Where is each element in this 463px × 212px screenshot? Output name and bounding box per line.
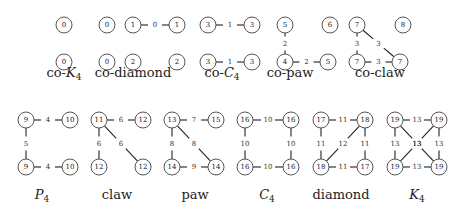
graph-node: 10 — [62, 112, 78, 128]
node-label: 18 — [317, 163, 326, 171]
graph-node: 17 — [313, 112, 329, 128]
graph-claw: 66611121212claw — [91, 112, 151, 202]
node-label: 15 — [212, 116, 221, 124]
graph-node: 3 — [244, 54, 260, 70]
graph-node: 10 — [62, 159, 78, 175]
edge: 6 — [104, 126, 137, 161]
edge-weight-label: 3 — [355, 40, 359, 48]
edge-weight-label: 10 — [264, 163, 273, 171]
edge: 10 — [287, 128, 296, 159]
graph-co-k4: 00co-K4 — [47, 17, 82, 82]
edge: 6 — [107, 116, 135, 124]
edge-weight-label: 8 — [170, 140, 174, 148]
edge: 8 — [170, 128, 174, 159]
graph-node: 9 — [18, 112, 34, 128]
node-label: 3 — [206, 21, 210, 29]
graph-caption: co-paw — [267, 65, 314, 80]
graph-node: 13 — [164, 112, 180, 128]
graph-node: 3 — [200, 17, 216, 33]
edge-weight-label: 5 — [24, 140, 28, 148]
node-label: 1 — [175, 21, 179, 29]
graph-caption: P4 — [34, 187, 50, 204]
edge: 4 — [34, 116, 62, 124]
edge: 1 — [216, 21, 244, 29]
edge: 11 — [329, 116, 357, 124]
edge: 11 — [361, 128, 370, 159]
graph-node: 1 — [125, 17, 141, 33]
edge: 0 — [141, 21, 169, 29]
edge-weight-label: 2 — [283, 40, 287, 48]
node-label: 9 — [24, 116, 28, 124]
graph-co-paw: 225645co-paw — [267, 17, 338, 80]
node-label: 10 — [66, 116, 75, 124]
graph-node: 16 — [237, 159, 253, 175]
graph-node: 12 — [91, 159, 107, 175]
edge: 13 — [403, 163, 431, 171]
edge-weight-label: 6 — [97, 140, 102, 148]
graph-co-diamond: 0011022co-diamond — [95, 17, 185, 80]
graph-node: 3 — [244, 17, 260, 33]
graph-node: 14 — [208, 159, 224, 175]
node-label: 19 — [435, 163, 444, 171]
node-label: 0 — [62, 21, 66, 29]
graph-node: 19 — [431, 159, 447, 175]
graph-node: 15 — [208, 112, 224, 128]
edge: 2 — [283, 33, 287, 54]
node-label: 2 — [175, 58, 179, 66]
edge-weight-label: 3 — [376, 40, 380, 48]
edge-weight-label: 9 — [192, 163, 196, 171]
node-label: 0 — [105, 21, 109, 29]
graph-node: 6 — [322, 17, 338, 33]
edge-weight-label: 6 — [119, 140, 124, 148]
edge: 9 — [180, 163, 208, 171]
edge-weight-label: 13 — [413, 116, 422, 124]
node-label: 14 — [212, 163, 221, 171]
graph-node: 5 — [277, 17, 293, 33]
edge-weight-label: 13 — [391, 140, 400, 148]
edge-weight-label: 4 — [46, 116, 51, 124]
node-label: 12 — [95, 163, 104, 171]
graph-node: 18 — [357, 112, 373, 128]
graph-co-claw: 3337877co-claw — [349, 17, 411, 80]
edge-weight-label: 13 — [435, 140, 444, 148]
edge: 11 — [329, 163, 357, 171]
node-label: 9 — [24, 163, 28, 171]
graph-node: 7 — [349, 17, 365, 33]
graph-node: 19 — [387, 112, 403, 128]
graph-diagram: 00co-K40011022co-diamond113333co-C422564… — [0, 0, 463, 212]
node-label: 12 — [139, 116, 148, 124]
node-label: 17 — [317, 116, 326, 124]
node-label: 5 — [283, 21, 287, 29]
edge-weight-label: 11 — [339, 163, 348, 171]
edge-weight-label: 11 — [339, 116, 348, 124]
graph-k4: 13131313131319191919K4 — [387, 112, 447, 204]
graph-node: 12 — [135, 159, 151, 175]
edge: 13 — [403, 116, 431, 124]
graph-node: 9 — [18, 159, 34, 175]
graph-node: 12 — [135, 112, 151, 128]
node-label: 14 — [168, 163, 177, 171]
graph-node: 8 — [395, 17, 411, 33]
node-label: 19 — [391, 163, 400, 171]
edge: 12 — [326, 126, 359, 161]
graph-node: 18 — [313, 159, 329, 175]
edge: 4 — [34, 163, 62, 171]
node-label: 5 — [326, 58, 330, 66]
edge: 5 — [24, 128, 28, 159]
edge: 13 — [435, 128, 444, 159]
node-label: 6 — [328, 21, 333, 29]
graph-paw: 788913151414paw — [164, 112, 224, 202]
graph-caption: K4 — [408, 187, 425, 204]
edge-weight-label: 4 — [46, 163, 51, 171]
edge-weight-label: 13 — [413, 140, 422, 148]
graph-node: 16 — [283, 112, 299, 128]
graph-diamond: 111111111217181817diamond — [312, 112, 373, 202]
node-label: 18 — [361, 116, 370, 124]
graph-node: 17 — [357, 159, 373, 175]
edge: 3 — [363, 30, 394, 57]
graph-node: 0 — [99, 17, 115, 33]
edge-weight-label: 11 — [317, 140, 326, 148]
edge-weight-label: 8 — [192, 140, 196, 148]
edge-weight-label: 1 — [228, 21, 232, 29]
graph-caption: claw — [102, 187, 132, 202]
